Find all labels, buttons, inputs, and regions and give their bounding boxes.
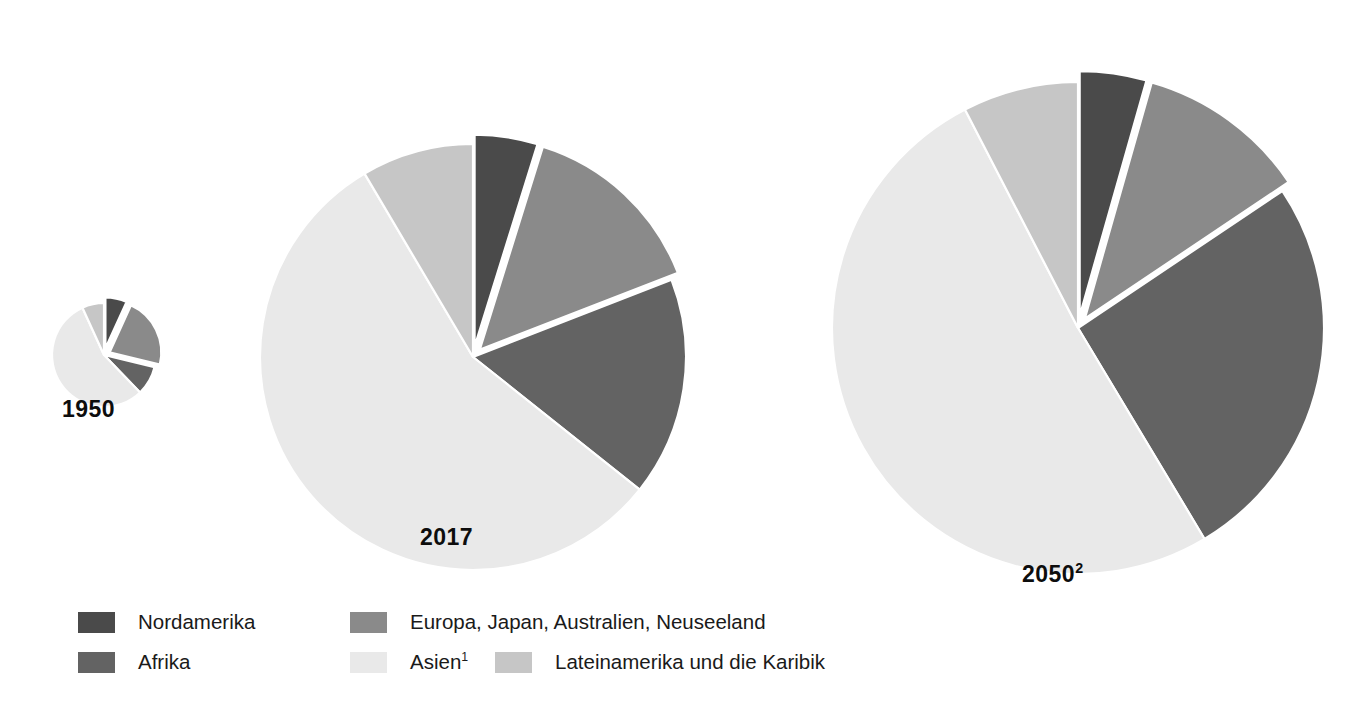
legend-item-afrika[interactable]: Afrika [78,647,190,677]
legend-item-asien[interactable]: Asien1 [350,647,468,677]
chart-canvas: Nordamerika — 6.8%Europa, Japan, Austral… [0,0,1371,718]
legend-item-nordamerika[interactable]: Nordamerika [78,607,255,637]
year-label-text: 1950 [62,396,115,422]
legend-label-europa: Europa, Japan, Australien, Neuseeland [410,612,766,633]
legend-label-asien: Asien1 [410,651,468,672]
pie-2017: Nordamerika — 4.8%Europa, Japan, Austral… [260,135,686,570]
legend-label-afrika: Afrika [138,652,190,673]
legend-swatch-asien [350,652,387,673]
year-label-text: 2017 [420,524,473,550]
pie-1950: Nordamerika — 6.8%Europa, Japan, Austral… [52,297,161,407]
pie-year-label-2050: 20502 [1022,560,1084,588]
pie-year-label-1950: 1950 [62,396,115,423]
legend-swatch-lateinamerika [495,652,532,673]
legend-swatch-europa [350,612,387,633]
year-label-text: 2050 [1022,561,1075,587]
year-label-footnote-marker: 2 [1075,560,1083,576]
legend-item-europa[interactable]: Europa, Japan, Australien, Neuseeland [350,607,766,637]
legend-row: NordamerikaEuropa, Japan, Australien, Ne… [78,607,1258,645]
legend-footnote-marker: 1 [461,650,468,664]
legend-item-lateinamerika[interactable]: Lateinamerika und die Karibik [495,647,825,677]
legend-label-lateinamerika: Lateinamerika und die Karibik [555,652,825,673]
legend-swatch-nordamerika [78,612,115,633]
legend-swatch-afrika [78,652,115,673]
pie-slices-layer: Nordamerika — 6.8%Europa, Japan, Austral… [52,71,1324,574]
legend-row: AfrikaAsien1Lateinamerika und die Karibi… [78,647,1258,685]
page-footer-cut-text [600,698,1360,716]
pie-year-label-2017: 2017 [420,524,473,551]
legend-label-nordamerika: Nordamerika [138,612,255,633]
pie-2050: Nordamerika — 4.4%Europa, Japan, Austral… [832,71,1324,574]
